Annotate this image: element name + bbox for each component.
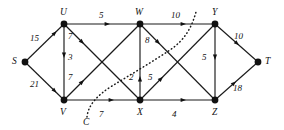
node-dot-T[interactable] [255, 59, 262, 66]
edge-weight-U-X: 7 [68, 32, 73, 41]
arrow-head-X-W [138, 76, 142, 81]
edge-group [25, 22, 258, 102]
edge-weight-X-Z: 4 [172, 110, 177, 119]
edge-weight-X-W: 2 [129, 73, 134, 82]
edge-weight-U-V: 3 [68, 53, 73, 62]
arrow-head-X-Z [181, 98, 186, 102]
node-dot-X[interactable] [137, 97, 144, 104]
edge-weight-V-W: 7 [68, 73, 73, 82]
arrow-head-Y-Z [213, 55, 217, 60]
cut-label-C: C [83, 118, 89, 128]
node-dot-S[interactable] [22, 59, 29, 66]
edge-Z-T [215, 62, 258, 100]
edge-U-V [62, 24, 66, 100]
edge-weight-U-W: 5 [99, 11, 104, 20]
node-label-Y: Y [212, 8, 217, 18]
arrow-head-U-W [105, 22, 110, 26]
edge-weight-Y-T: 10 [234, 32, 243, 41]
node-label-V: V [60, 108, 66, 118]
node-dot-Z[interactable] [212, 97, 219, 104]
arrow-head-V-X [109, 98, 114, 102]
node-label-Z: Z [212, 108, 217, 118]
edge-Y-Z [213, 24, 217, 100]
flow-network-diagram: S U V W X Y Z T 15 21 5 3 7 7 7 10 8 2 5… [0, 0, 284, 130]
edge-U-W [64, 22, 140, 26]
edge-Y-T [215, 24, 258, 62]
node-label-S: S [12, 57, 17, 67]
edge-X-W [138, 24, 142, 100]
edge-V-X [64, 98, 140, 102]
node-dot-Y[interactable] [212, 21, 219, 28]
arrow-head-U-V [62, 53, 66, 58]
node-dot-U[interactable] [61, 21, 68, 28]
node-label-T: T [265, 57, 270, 67]
edge-weight-Z-T: 18 [233, 84, 242, 93]
edge-weight-W-Z: 8 [145, 36, 150, 45]
edge-weight-V-X: 7 [99, 110, 104, 119]
edge-weight-Y-Z: 5 [202, 53, 207, 62]
arrow-head-W-Y [181, 22, 186, 26]
edge-weight-S-V: 21 [30, 80, 39, 89]
edge-weight-X-Y: 5 [148, 73, 153, 82]
node-label-X: X [137, 108, 143, 118]
node-dot-V[interactable] [61, 97, 68, 104]
edge-weight-W-Y: 10 [171, 11, 180, 20]
edge-weight-S-U: 15 [30, 34, 39, 43]
edge-X-Z [140, 98, 215, 102]
edge-S-U [25, 24, 64, 62]
node-label-U: U [60, 8, 67, 18]
node-label-W: W [135, 8, 143, 18]
node-dot-W[interactable] [137, 21, 144, 28]
edge-W-Y [140, 22, 215, 26]
